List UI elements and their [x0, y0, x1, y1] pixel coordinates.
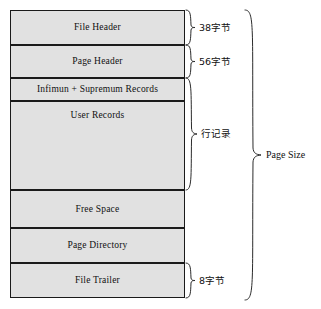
brace-page-size [243, 8, 263, 302]
section-box-infimum-supremum-records: Infimun + Supremum Records [10, 78, 185, 101]
brace-file-header [185, 8, 199, 48]
page-structure-diagram: File Header Page Header Infimun + Suprem… [0, 0, 321, 309]
section-label: File Header [74, 22, 121, 32]
section-label: User Records [71, 110, 125, 120]
section-box-file-header: File Header [10, 10, 185, 45]
annotation-label-file-header-bytes: 38字节 [199, 23, 231, 33]
section-label: Infimun + Supremum Records [37, 84, 158, 94]
section-label: File Trailer [75, 275, 120, 285]
section-label: Free Space [76, 204, 120, 214]
section-label: Page Directory [67, 240, 127, 250]
section-box-user-records: User Records [10, 101, 185, 190]
section-box-free-space: Free Space [10, 190, 185, 228]
section-box-page-directory: Page Directory [10, 228, 185, 263]
annotation-label-row-records: 行记录 [201, 129, 231, 139]
annotation-label-page-size: Page Size [266, 150, 305, 160]
brace-row-records [185, 76, 201, 194]
section-box-page-header: Page Header [10, 45, 185, 78]
annotation-label-file-trailer-bytes: 8字节 [199, 276, 225, 286]
section-box-file-trailer: File Trailer [10, 263, 185, 298]
brace-page-header [185, 43, 199, 81]
brace-file-trailer [185, 261, 199, 301]
section-label: Page Header [72, 56, 122, 66]
annotation-label-page-header-bytes: 56字节 [199, 57, 231, 67]
